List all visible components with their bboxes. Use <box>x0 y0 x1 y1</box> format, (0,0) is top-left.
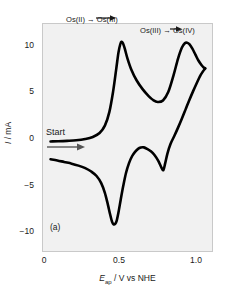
x-tick-label-1.0: 1.0 <box>179 255 213 265</box>
y-tick-label-5: 5 <box>4 86 34 96</box>
start-label: Start <box>46 127 65 137</box>
x-tick-label-0: 0 <box>27 255 61 265</box>
x-tick-label-0.5: 0.5 <box>102 255 136 265</box>
y-tick-label-10: 10 <box>4 40 34 50</box>
y-tick-label-0: 0 <box>4 133 34 143</box>
x-axis-subscript: ap <box>105 279 112 285</box>
annotation-peak2-label: Os(III) → Os(IV) <box>140 26 195 35</box>
y-tick-label-neg10: −10 <box>4 226 34 236</box>
x-axis-label: Eap / V vs NHE <box>42 273 213 285</box>
figure-panel-a: I / mA Eap / V vs NHE 10 5 0 −5 −10 0 0.… <box>0 0 230 295</box>
x-axis-units: / V vs NHE <box>112 273 156 283</box>
plot-area <box>42 23 213 252</box>
panel-label: (a) <box>50 222 60 232</box>
y-tick-label-neg5: −5 <box>4 180 34 190</box>
annotation-peak1-label: Os(II) → Os(III) <box>66 15 118 24</box>
